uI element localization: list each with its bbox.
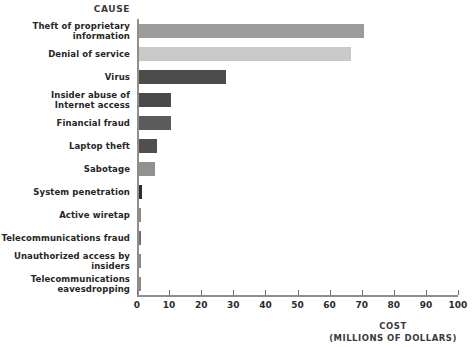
- axis-tick-label: 40: [248, 300, 282, 310]
- bar-track: [139, 65, 460, 89]
- bar: [139, 162, 155, 176]
- bar-category-label: Laptop theft: [0, 134, 130, 158]
- bar-category-label: Unauthorized access byinsiders: [0, 249, 130, 273]
- value-axis: 0102030405060708090100: [137, 295, 458, 296]
- bar-category-label: Financial fraud: [0, 111, 130, 135]
- axis-tick-label: 80: [377, 300, 411, 310]
- bar: [139, 208, 141, 222]
- axis-tick-label: 30: [216, 300, 250, 310]
- bar-category-label-line: System penetration: [33, 187, 130, 198]
- bar-track: [139, 203, 460, 227]
- table-row: Sabotage: [0, 157, 474, 181]
- value-axis-title-units: (MILLIONS OF DOLLARS): [318, 332, 468, 344]
- value-axis-title-main: COST: [379, 321, 406, 331]
- bar-category-label: Denial of service: [0, 42, 130, 66]
- bar-category-label: Telecommunications fraud: [0, 226, 130, 250]
- axis-tick-label: 10: [152, 300, 186, 310]
- category-axis-title: CAUSE: [0, 4, 130, 14]
- table-row: Virus: [0, 65, 474, 89]
- bar-category-label: Theft of proprietaryinformation: [0, 19, 130, 43]
- axis-tick: [233, 290, 234, 295]
- axis-tick-label: 60: [313, 300, 347, 310]
- bar-category-label: Telecommunicationseavesdropping: [0, 272, 130, 296]
- bar-category-label-line: Active wiretap: [59, 210, 130, 221]
- axis-tick-label: 0: [120, 300, 154, 310]
- table-row: Financial fraud: [0, 111, 474, 135]
- table-row: Laptop theft: [0, 134, 474, 158]
- bar-category-label: Insider abuse ofInternet access: [0, 88, 130, 112]
- bar-track: [139, 19, 460, 43]
- bar-category-label: Sabotage: [0, 157, 130, 181]
- bar-category-label: Virus: [0, 65, 130, 89]
- axis-tick-label: 90: [409, 300, 443, 310]
- table-row: Active wiretap: [0, 203, 474, 227]
- table-row: Denial of service: [0, 42, 474, 66]
- bar-category-label-line: Unauthorized access by: [14, 251, 130, 261]
- bar: [139, 70, 226, 84]
- bar-category-label-line: Virus: [105, 72, 130, 83]
- bar-category-label-line: information: [73, 31, 130, 41]
- axis-tick: [298, 290, 299, 295]
- bar-category-label: System penetration: [0, 180, 130, 204]
- bar-track: [139, 249, 460, 273]
- bar-category-label-line: Telecommunications: [31, 274, 130, 284]
- axis-tick-label: 70: [345, 300, 379, 310]
- bar: [139, 254, 141, 268]
- bar: [139, 116, 171, 130]
- table-row: Telecommunications fraud: [0, 226, 474, 250]
- bar-category-label-line: insiders: [91, 261, 130, 271]
- bar-category-label-line: Denial of service: [48, 49, 130, 60]
- bar-category-label-line: Telecommunications fraud: [1, 233, 130, 244]
- bar-track: [139, 134, 460, 158]
- table-row: System penetration: [0, 180, 474, 204]
- bar-track: [139, 226, 460, 250]
- bar-track: [139, 157, 460, 181]
- axis-tick-label: 100: [441, 300, 474, 310]
- bar-category-label-line: Laptop theft: [69, 141, 130, 152]
- table-row: Unauthorized access byinsiders: [0, 249, 474, 273]
- bar-track: [139, 272, 460, 296]
- bar: [139, 139, 157, 153]
- axis-tick: [169, 290, 170, 295]
- table-row: Theft of proprietaryinformation: [0, 19, 474, 43]
- bar-category-label-line: Financial fraud: [57, 118, 130, 129]
- bar-track: [139, 42, 460, 66]
- bar-category-label-line: Sabotage: [84, 164, 130, 175]
- bar-category-label-line: eavesdropping: [58, 284, 131, 294]
- axis-tick: [201, 290, 202, 295]
- table-row: Telecommunicationseavesdropping: [0, 272, 474, 296]
- axis-tick: [330, 290, 331, 295]
- bar-category-label-line: Internet access: [55, 100, 130, 110]
- bar: [139, 47, 351, 61]
- axis-tick: [458, 290, 459, 295]
- axis-tick: [362, 290, 363, 295]
- bar: [139, 93, 171, 107]
- value-axis-title: COST (MILLIONS OF DOLLARS): [318, 320, 468, 344]
- axis-tick: [137, 290, 138, 295]
- bar: [139, 24, 364, 38]
- table-row: Insider abuse ofInternet access: [0, 88, 474, 112]
- bar: [139, 231, 141, 245]
- bar-category-label-line: Insider abuse of: [51, 90, 130, 100]
- axis-tick: [426, 290, 427, 295]
- bar-category-label-line: Theft of proprietary: [33, 21, 130, 31]
- bar: [139, 277, 141, 291]
- axis-tick: [265, 290, 266, 295]
- bar-track: [139, 111, 460, 135]
- bar-chart: CAUSE Theft of proprietaryinformationDen…: [0, 0, 474, 347]
- bar-category-label: Active wiretap: [0, 203, 130, 227]
- axis-tick-label: 20: [184, 300, 218, 310]
- bar-track: [139, 180, 460, 204]
- bar: [139, 185, 142, 199]
- axis-tick-label: 50: [281, 300, 315, 310]
- axis-tick: [394, 290, 395, 295]
- value-axis-line: [137, 295, 458, 297]
- bar-track: [139, 88, 460, 112]
